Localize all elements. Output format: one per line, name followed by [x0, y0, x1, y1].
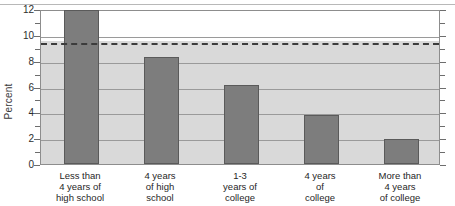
y-tick-minor-right — [440, 152, 445, 153]
gridline — [41, 37, 439, 38]
y-tick-label: 4 — [14, 107, 34, 118]
x-axis-label-line: school — [120, 192, 200, 203]
x-axis-label-line: More than — [360, 170, 440, 181]
x-axis-label-2: 4 yearsof highschool — [120, 170, 200, 203]
y-tick-label: 10 — [14, 30, 34, 41]
bar-1[interactable] — [64, 10, 99, 164]
y-tick-major-right — [440, 139, 446, 140]
y-tick-minor — [35, 100, 40, 101]
y-tick-minor-right — [440, 49, 445, 50]
x-axis-label-line: of college — [360, 192, 440, 203]
x-axis-label-line: of — [280, 181, 360, 192]
x-axis-label-line: of high — [120, 181, 200, 192]
y-tick-minor-right — [440, 100, 445, 101]
y-tick-major — [34, 36, 40, 37]
y-tick-major — [34, 62, 40, 63]
y-tick-major-right — [440, 62, 446, 63]
y-tick-label: 8 — [14, 56, 34, 67]
y-axis-title-text: Percent — [3, 84, 14, 120]
x-axis-label-line: 1-3 — [200, 170, 280, 181]
plot-area — [40, 10, 440, 165]
x-axis-label-3: 1-3years ofcollege — [200, 170, 280, 203]
y-tick-label: 12 — [14, 4, 34, 15]
y-tick-major-right — [440, 165, 446, 166]
x-axis-label-5: More than4 yearsof college — [360, 170, 440, 203]
x-axis-label-1: Less than4 years ofhigh school — [40, 170, 120, 203]
x-axis-label-line: years of — [200, 181, 280, 192]
x-axis-label-line: Less than — [40, 170, 120, 181]
y-tick-minor — [35, 49, 40, 50]
y-tick-major-right — [440, 36, 446, 37]
x-axis-label-line: 4 years — [360, 181, 440, 192]
x-axis-label-line: 4 years of — [40, 181, 120, 192]
y-tick-major-right — [440, 88, 446, 89]
y-tick-minor — [35, 126, 40, 127]
y-tick-major — [34, 139, 40, 140]
x-axis-label-line: 4 years — [120, 170, 200, 181]
y-tick-minor-right — [440, 75, 445, 76]
y-tick-major-right — [440, 113, 446, 114]
y-tick-label: 6 — [14, 82, 34, 93]
y-tick-major — [34, 165, 40, 166]
y-tick-label: 0 — [14, 159, 34, 170]
y-tick-minor-right — [440, 126, 445, 127]
y-tick-major — [34, 10, 40, 11]
y-tick-minor — [35, 23, 40, 24]
x-axis-label-4: 4 yearsofcollege — [280, 170, 360, 203]
y-tick-label: 2 — [14, 133, 34, 144]
y-tick-minor — [35, 75, 40, 76]
gridline — [41, 63, 439, 64]
bar-5[interactable] — [384, 139, 419, 164]
y-tick-major-right — [440, 10, 446, 11]
y-tick-major — [34, 88, 40, 89]
bar-2[interactable] — [144, 57, 179, 164]
chart-figure: Percent 024681012 Less than4 years ofhig… — [0, 0, 455, 206]
y-axis-title: Percent — [2, 62, 18, 142]
y-tick-minor — [35, 152, 40, 153]
x-axis-label-line: college — [200, 192, 280, 203]
y-tick-major — [34, 113, 40, 114]
bar-3[interactable] — [224, 85, 259, 164]
y-tick-minor-right — [440, 23, 445, 24]
bar-4[interactable] — [304, 115, 339, 164]
top-divider-rule — [0, 4, 455, 5]
x-axis-label-line: 4 years — [280, 170, 360, 181]
x-axis-label-line: high school — [40, 192, 120, 203]
x-axis-label-line: college — [280, 192, 360, 203]
reference-line — [41, 43, 439, 45]
